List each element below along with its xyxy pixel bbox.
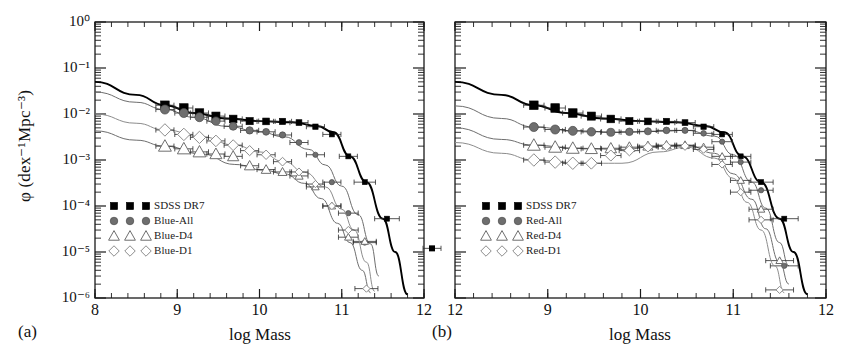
data-marker-open-diamond <box>228 140 239 151</box>
legend-marker-open-diamond <box>481 246 523 256</box>
data-marker-open-diamond <box>549 156 561 168</box>
data-marker-open-triangle <box>244 160 255 169</box>
data-marker-filled-square <box>384 216 389 221</box>
data-marker-filled-square <box>530 101 539 110</box>
data-marker-open-diamond <box>125 246 135 256</box>
data-marker-filled-circle <box>663 127 670 134</box>
data-marker-open-diamond <box>193 131 205 143</box>
series-group-panel-b <box>455 82 807 295</box>
data-marker-filled-circle <box>279 132 285 138</box>
data-marker-filled-square <box>782 216 787 221</box>
data-marker-open-diamond <box>681 142 689 150</box>
data-marker-filled-square <box>551 104 560 113</box>
data-marker-open-diamond <box>210 135 222 147</box>
legend-marker-open-triangle <box>481 231 524 241</box>
data-marker-open-triangle <box>497 231 508 241</box>
x-tick-label: 11 <box>322 301 362 319</box>
data-marker-filled-circle <box>160 105 169 114</box>
data-marker-filled-square <box>279 118 285 124</box>
data-marker-open-diamond <box>757 216 764 223</box>
panel-tag-a: (a) <box>18 322 37 342</box>
data-marker-open-diamond <box>776 286 783 293</box>
data-marker-open-diamond <box>109 246 119 256</box>
data-marker-filled-circle <box>682 127 688 133</box>
data-marker-filled-circle <box>568 126 577 135</box>
data-marker-open-triangle <box>125 231 136 241</box>
data-marker-filled-circle <box>212 117 220 125</box>
data-marker-open-diamond <box>643 142 653 152</box>
overflow-point-panel-a <box>423 245 441 251</box>
data-marker-open-triangle <box>481 231 492 241</box>
data-marker-filled-square <box>587 112 595 120</box>
x-tick-label: 11 <box>713 301 753 319</box>
y-tick-label: 10⁰ <box>30 12 90 30</box>
data-marker-open-triangle <box>109 231 120 241</box>
series-red-all <box>455 106 798 269</box>
data-marker-open-diamond <box>245 146 255 156</box>
data-marker-filled-square <box>142 202 149 209</box>
data-marker-filled-square <box>498 202 505 209</box>
x-tick-label: 9 <box>528 301 568 319</box>
data-marker-open-triangle <box>193 146 206 157</box>
data-marker-filled-square <box>482 202 489 209</box>
data-marker-open-diamond <box>528 154 540 166</box>
data-marker-open-diamond <box>585 157 597 169</box>
y-tick-label: 10⁻⁵ <box>30 242 90 260</box>
data-marker-filled-square <box>246 118 253 125</box>
data-marker-filled-circle <box>607 128 615 136</box>
x-axis-title-panel-b: log Mass <box>555 325 725 345</box>
data-marker-open-triangle <box>228 151 239 161</box>
data-marker-filled-square <box>346 154 351 159</box>
panel-tag-b: (b) <box>432 322 452 342</box>
data-marker-open-diamond <box>278 157 287 166</box>
data-marker-open-triangle <box>141 231 152 241</box>
data-marker-filled-square <box>663 118 669 124</box>
data-marker-filled-square <box>701 124 706 129</box>
data-marker-filled-circle <box>263 128 270 135</box>
legend-marker-filled-circle <box>482 217 522 225</box>
data-marker-filled-circle <box>246 127 253 134</box>
data-marker-open-diamond <box>497 246 507 256</box>
data-marker-filled-circle <box>110 217 118 225</box>
data-marker-filled-square <box>126 202 133 209</box>
legend-marker-open-triangle <box>109 231 152 241</box>
data-marker-filled-square <box>759 180 764 185</box>
data-marker-filled-square <box>607 115 615 123</box>
data-marker-filled-circle <box>738 159 743 164</box>
data-marker-filled-square <box>569 109 578 118</box>
legend-label: Blue-All <box>154 214 193 226</box>
data-marker-filled-circle <box>329 180 334 185</box>
data-marker-filled-circle <box>514 217 522 225</box>
legend-marker-filled-square <box>110 202 149 209</box>
data-marker-filled-circle <box>529 123 538 132</box>
data-marker-filled-circle <box>626 128 634 136</box>
data-marker-filled-circle <box>229 122 237 130</box>
data-marker-open-diamond <box>141 246 151 256</box>
y-tick-label: 10⁻⁴ <box>30 196 90 214</box>
data-marker-filled-square <box>362 180 367 185</box>
x-tick-label: 10 <box>240 301 280 319</box>
legend-marker-filled-square <box>482 202 521 209</box>
data-marker-open-diamond <box>513 246 523 256</box>
data-marker-filled-square <box>329 132 334 137</box>
y-axis-title: φ (dex⁻¹Mpc⁻³) <box>14 46 35 246</box>
data-marker-filled-square <box>626 118 633 125</box>
data-marker-filled-circle <box>719 139 724 144</box>
data-marker-filled-square <box>720 132 725 137</box>
data-marker-open-diamond <box>567 157 579 169</box>
data-marker-filled-circle <box>701 131 707 137</box>
data-marker-filled-circle <box>126 217 134 225</box>
data-marker-filled-circle <box>142 217 150 225</box>
data-marker-open-diamond <box>159 124 171 136</box>
data-marker-open-diamond <box>481 246 491 256</box>
legend-label: Red-All <box>526 214 562 226</box>
data-marker-filled-square <box>263 118 270 125</box>
data-marker-filled-circle <box>587 128 596 137</box>
data-marker-filled-square <box>229 115 237 123</box>
x-tick-label: 12 <box>806 301 846 319</box>
series-group-panel-a <box>95 82 408 295</box>
legend-label: SDSS DR7 <box>526 199 577 211</box>
data-marker-filled-square <box>313 124 318 129</box>
data-marker-open-triangle <box>210 148 222 159</box>
data-marker-filled-square <box>645 118 652 125</box>
